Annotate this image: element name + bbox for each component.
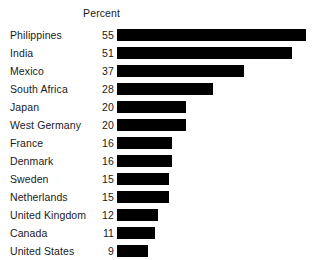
value-label: 12 bbox=[60, 206, 114, 224]
bar-track bbox=[117, 44, 316, 62]
bar bbox=[117, 101, 186, 113]
bar bbox=[117, 227, 155, 239]
bar-track bbox=[117, 62, 316, 80]
category-label: Denmark bbox=[10, 152, 53, 170]
value-label: 20 bbox=[60, 116, 114, 134]
chart-rows: Philippines55India51Mexico37South Africa… bbox=[0, 26, 316, 260]
value-label: 15 bbox=[60, 170, 114, 188]
bar-track bbox=[117, 26, 316, 44]
chart-row: Netherlands15 bbox=[0, 188, 316, 206]
bar-track bbox=[117, 152, 316, 170]
bar bbox=[117, 65, 244, 77]
bar-track bbox=[117, 80, 316, 98]
category-label: Japan bbox=[10, 98, 39, 116]
bar bbox=[117, 47, 292, 59]
chart-row: France16 bbox=[0, 134, 316, 152]
category-label: Philippines bbox=[10, 26, 62, 44]
chart-row: United Kingdom12 bbox=[0, 206, 316, 224]
chart-row: Canada11 bbox=[0, 224, 316, 242]
bar bbox=[117, 209, 158, 221]
value-label: 28 bbox=[60, 80, 114, 98]
bar-track bbox=[117, 188, 316, 206]
value-label: 9 bbox=[60, 242, 114, 260]
category-label: Sweden bbox=[10, 170, 49, 188]
bar-track bbox=[117, 134, 316, 152]
chart-row: Sweden15 bbox=[0, 170, 316, 188]
category-label: Mexico bbox=[10, 62, 44, 80]
chart-row: Philippines55 bbox=[0, 26, 316, 44]
value-label: 20 bbox=[60, 98, 114, 116]
chart-row: Mexico37 bbox=[0, 62, 316, 80]
bar-track bbox=[117, 116, 316, 134]
category-label: France bbox=[10, 134, 43, 152]
chart-row: United States9 bbox=[0, 242, 316, 260]
chart-row: West Germany20 bbox=[0, 116, 316, 134]
bar-track bbox=[117, 206, 316, 224]
bar bbox=[117, 29, 306, 41]
value-label: 16 bbox=[60, 134, 114, 152]
bar-track bbox=[117, 224, 316, 242]
bar-track bbox=[117, 98, 316, 116]
bar bbox=[117, 155, 172, 167]
bar bbox=[117, 191, 169, 203]
chart-row: India51 bbox=[0, 44, 316, 62]
value-label: 15 bbox=[60, 188, 114, 206]
value-label: 16 bbox=[60, 152, 114, 170]
bar bbox=[117, 137, 172, 149]
bar-track bbox=[117, 242, 316, 260]
category-label: Canada bbox=[10, 224, 47, 242]
chart-row: South Africa28 bbox=[0, 80, 316, 98]
bar bbox=[117, 119, 186, 131]
bar bbox=[117, 245, 148, 257]
value-label: 55 bbox=[60, 26, 114, 44]
value-label: 37 bbox=[60, 62, 114, 80]
category-label: India bbox=[10, 44, 33, 62]
value-label: 11 bbox=[60, 224, 114, 242]
chart-row: Denmark16 bbox=[0, 152, 316, 170]
value-column-header: Percent bbox=[0, 5, 120, 21]
bar bbox=[117, 173, 169, 185]
chart-row: Japan20 bbox=[0, 98, 316, 116]
bar bbox=[117, 83, 213, 95]
bar-track bbox=[117, 170, 316, 188]
value-label: 51 bbox=[60, 44, 114, 62]
